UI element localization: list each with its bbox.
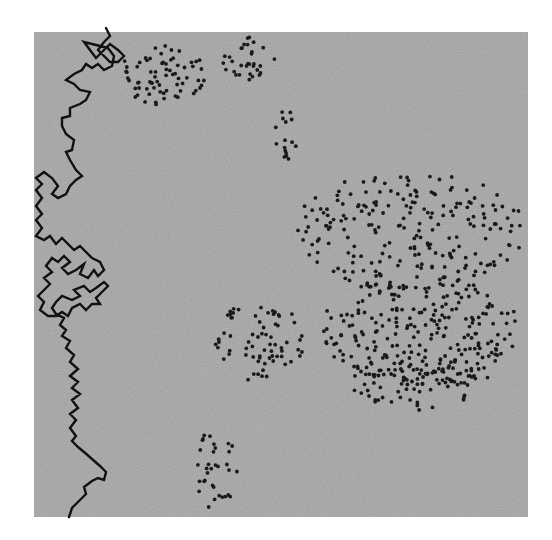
particle-dot [341,359,345,363]
particle-dot [357,308,361,312]
particle-dot [234,73,238,77]
particle-dot [510,224,514,228]
particle-dot [206,471,210,475]
particle-dot [478,346,482,350]
particle-dot [477,367,481,371]
particle-dot [412,387,416,391]
particle-dot [472,224,476,228]
particle-dot [322,211,326,215]
particle-dot [290,140,294,144]
particle-dot [413,245,417,249]
particle-dot [270,354,274,358]
particle-dot [194,89,198,93]
particle-dot [289,360,293,364]
particle-dot [338,349,342,353]
particle-dot [352,244,356,248]
particle-dot [509,229,513,233]
particle-dot [367,223,371,227]
particle-dot [247,36,251,40]
particle-dot [432,191,436,195]
particle-dot [359,391,363,395]
particle-dot [262,326,266,330]
particle-dot [161,61,165,65]
particle-dot [474,252,478,256]
particle-dot [390,308,394,312]
particle-dot [212,485,216,489]
particle-dot [252,372,256,376]
particle-dot [512,209,516,213]
particle-dot [285,341,289,345]
particle-dot [260,332,264,336]
particle-dot [225,463,229,467]
particle-dot [350,314,354,318]
particle-dot [442,335,446,339]
particle-dot [348,279,352,283]
particle-dot [217,340,221,344]
particle-dot [357,344,361,348]
particle-dot [435,331,439,335]
particle-dot [447,236,451,240]
particle-dot [495,343,499,347]
particle-dot [290,312,294,316]
particle-dot [453,380,457,384]
particle-dot [337,189,341,193]
particle-dot [473,196,477,200]
particle-dot [432,302,436,306]
particle-dot [508,332,512,336]
particle-dot [457,301,461,305]
particle-dot [374,345,378,349]
particle-dot [394,320,398,324]
particle-dot [222,357,226,361]
particle-dot [482,212,486,216]
particle-dot [339,314,343,318]
particle-dot [343,180,347,184]
particle-dot [410,380,414,384]
particle-dot [352,254,356,258]
particle-dot [126,76,130,80]
particle-dot [464,317,468,321]
particle-dot [450,308,454,312]
particle-dot [374,200,378,204]
particle-dot [371,209,375,213]
particle-dot [339,333,343,337]
particle-dot [408,211,412,215]
particle-dot [511,344,515,348]
particle-dot [499,253,503,257]
particle-dot [197,79,201,83]
particle-dot [434,251,438,255]
particle-dot [271,359,275,363]
particle-dot [505,258,509,262]
particle-dot [390,400,394,404]
particle-dot [435,323,439,327]
particle-dot [439,357,443,361]
particle-dot [438,319,442,323]
particle-dot [376,398,380,402]
particle-dot [301,238,305,242]
particle-dot [176,63,180,67]
particle-dot [363,382,367,386]
particle-dot [202,79,206,83]
particle-dot [396,192,400,196]
particle-dot [159,52,163,56]
particle-dot [399,396,403,400]
particle-dot [445,294,449,298]
particle-dot [336,267,340,271]
particle-dot [410,350,414,354]
particle-dot [456,343,460,347]
particle-dot [370,316,374,320]
particle-dot [454,307,458,311]
particle-dot [200,84,204,88]
particle-dot [465,205,469,209]
simulation-panel [34,32,528,517]
particle-dot [378,190,382,194]
particle-dot [437,367,441,371]
particle-dot [268,342,272,346]
particle-dot [388,241,392,245]
particle-dot [481,183,485,187]
particle-dot [513,319,517,323]
particle-dot [185,76,189,80]
particle-dot [272,312,276,316]
particle-dot [349,192,353,196]
particle-dot [364,190,368,194]
particle-dot [175,83,179,87]
